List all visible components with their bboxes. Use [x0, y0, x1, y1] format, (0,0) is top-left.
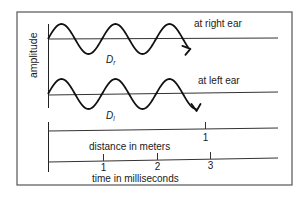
left-ear-baseline [48, 92, 278, 95]
amplitude-axis-label: amplitude [27, 32, 39, 78]
time-tick-label: 3 [208, 160, 214, 171]
left-ear-marker: Dl [106, 110, 115, 122]
right-ear-arrowhead-icon [182, 46, 190, 55]
time-tick-label: 2 [155, 161, 161, 172]
time-axis [48, 158, 278, 162]
time-axis-label: time in milliseconds [92, 173, 179, 184]
distance-tick-label: 1 [203, 132, 209, 143]
right-ear-marker: Dr [106, 54, 116, 66]
right-ear-baseline [48, 38, 278, 39]
distance-axis [48, 128, 278, 131]
sound-wave-diagram: amplitude at right ear at left ear Dr Dl… [0, 0, 307, 198]
right-ear-label: at right ear [194, 18, 242, 29]
time-tick-label: 1 [101, 162, 107, 173]
distance-axis-label: distance in meters [89, 141, 170, 152]
left-ear-label: at left ear [198, 75, 240, 86]
